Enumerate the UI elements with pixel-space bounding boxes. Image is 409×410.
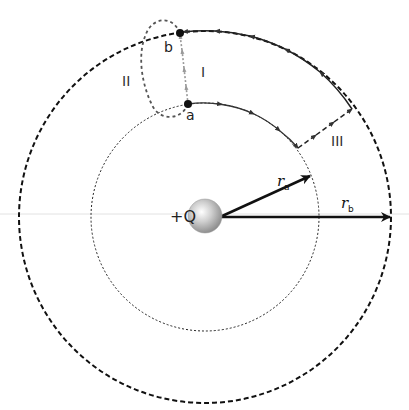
equipotential-path-diagram: +Q a b I II III r a r b: [0, 0, 409, 410]
charge-label: +Q: [170, 207, 196, 226]
path-I-label: I: [201, 64, 205, 80]
point-b: [176, 29, 184, 37]
point-a-label: a: [186, 107, 195, 123]
ra-arrow: [220, 176, 310, 217]
path-III-label: III: [331, 133, 343, 149]
inner-arc-path-arrows: [188, 103, 298, 148]
path-I: [180, 35, 188, 104]
rb-label: r b: [341, 194, 354, 214]
point-b-label: b: [164, 39, 173, 55]
svg-text:b: b: [348, 204, 354, 214]
svg-text:a: a: [284, 182, 290, 192]
path-II-label: II: [122, 73, 130, 89]
ra-label: r a: [277, 172, 290, 192]
path-III: [298, 109, 352, 148]
